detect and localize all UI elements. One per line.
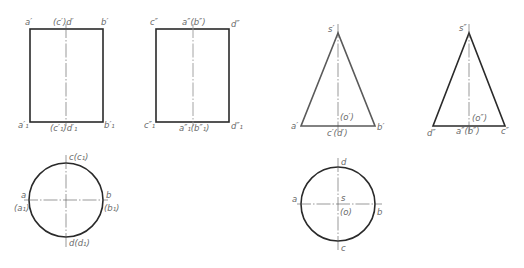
label-c1-double-prime: c″₁: [144, 120, 155, 130]
label-c-cone-top: c: [341, 243, 346, 253]
label-c-d-prime: (c′)d′: [53, 17, 74, 27]
cone-top-view: d a s (o) b c: [292, 157, 382, 253]
label-a1: (a₁): [14, 203, 29, 213]
label-c-double-prime-cone: c″: [501, 126, 510, 136]
cone-front-view: s′ (o′) a′ c′(d′) b′: [291, 24, 384, 138]
label-a-b-double-prime-cone: a″(b″): [456, 126, 480, 136]
label-o-cone-top: (o): [340, 207, 352, 217]
label-b-cone-top: b: [377, 207, 382, 217]
label-d-double-prime: d″: [231, 19, 240, 29]
label-s-cone-top: s: [341, 193, 346, 203]
label-o-prime: (o′): [340, 112, 354, 122]
label-s-double-prime: s″: [459, 23, 467, 33]
cylinder-side-view: c″ a″(b″) d″ c″₁ a″₁(b″₁) d″₁: [144, 17, 243, 133]
label-d-cone-top: d: [341, 157, 347, 167]
label-b1-prime: b′₁: [104, 120, 115, 130]
label-c-c1: c(c₁): [69, 152, 88, 162]
label-c1-d1-prime: (c′₁)d′₁: [50, 123, 77, 133]
label-a: a: [21, 190, 26, 200]
label-a1-b1-double-prime: a″₁(b″₁): [179, 123, 209, 133]
label-a-prime-cone: a′: [291, 121, 298, 131]
cylinder-top-view: c(c₁) a (a₁) b (b₁) d(d₁): [14, 152, 119, 248]
label-a-b-double-prime: a″(b″): [182, 17, 206, 27]
label-d-double-prime-cone: d″: [427, 128, 436, 138]
label-a-cone-top: a: [292, 194, 297, 204]
label-s-prime: s′: [328, 24, 334, 34]
orthographic-projection-diagram: a′ (c′)d′ b′ a′₁ (c′₁)d′₁ b′₁ c″ a″(b″) …: [0, 0, 524, 268]
label-d-d1: d(d₁): [69, 238, 90, 248]
label-c-d-prime-cone: c′(d′): [327, 128, 348, 138]
label-o-double-prime: (o″): [472, 113, 487, 123]
cone-side-view: s″ (o″) d″ a″(b″) c″: [427, 23, 510, 138]
label-b: b: [106, 190, 111, 200]
label-b-prime-cone: b′: [377, 122, 384, 132]
cylinder-side-rectangle: [156, 29, 229, 122]
label-a-prime: a′: [25, 17, 32, 27]
label-c-double-prime: c″: [150, 17, 159, 27]
cylinder-front-rectangle: [30, 29, 103, 122]
label-b1: (b₁): [104, 203, 119, 213]
label-b-prime: b′: [101, 17, 108, 27]
label-a1-prime: a′₁: [18, 120, 29, 130]
label-d1-double-prime: d″₁: [231, 121, 243, 131]
cylinder-front-view: a′ (c′)d′ b′ a′₁ (c′₁)d′₁ b′₁: [18, 17, 115, 133]
